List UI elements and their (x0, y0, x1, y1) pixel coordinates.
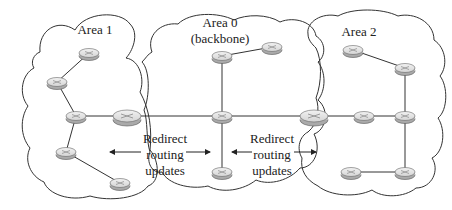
router-icon (212, 52, 232, 64)
redirect-line: routing (140, 147, 190, 163)
router-icon (79, 49, 99, 61)
area0-subtitle: (backbone) (180, 31, 260, 47)
area0-label: Area 0 (backbone) (180, 15, 260, 47)
router-icon (341, 168, 361, 180)
router-icon (66, 112, 86, 124)
router-icon (212, 112, 232, 124)
area2-label: Area 2 (334, 24, 384, 40)
router-icon (56, 148, 76, 160)
router-icon (395, 112, 415, 124)
redirect-line: Redirect (140, 131, 190, 147)
router-icon (395, 168, 415, 180)
area1-cloud (22, 15, 157, 199)
router-icon (354, 112, 374, 124)
redirect-line: Redirect (247, 131, 297, 147)
router-icon (212, 168, 232, 180)
area-border-router-icon (300, 110, 328, 126)
router-icon (47, 78, 67, 90)
area0-title: Area 0 (180, 15, 260, 31)
area1-label: Area 1 (70, 22, 120, 38)
redirect-line: updates (247, 163, 297, 179)
router-icon (262, 43, 282, 55)
redirect-line: routing (247, 147, 297, 163)
router-icon (395, 64, 415, 76)
router-icon (343, 46, 363, 58)
redirect-annotation-right: Redirect routing updates (247, 131, 297, 179)
redirect-annotation-left: Redirect routing updates (140, 131, 190, 179)
redirect-line: updates (140, 163, 190, 179)
area-border-router-icon (113, 110, 141, 126)
router-icon (110, 179, 130, 191)
